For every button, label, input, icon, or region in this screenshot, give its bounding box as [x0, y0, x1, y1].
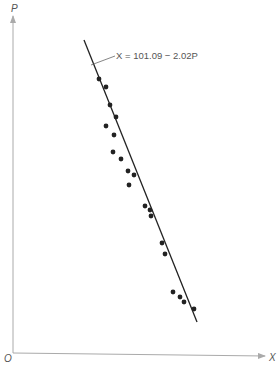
- scatter-chart: P X O X = 101.09 − 2.02P: [0, 0, 280, 367]
- data-point: [126, 169, 131, 174]
- x-axis-label: X: [268, 352, 276, 363]
- data-point: [171, 290, 176, 295]
- data-point: [119, 157, 124, 162]
- data-point: [178, 295, 183, 300]
- data-point: [97, 77, 102, 82]
- data-point: [163, 252, 168, 257]
- x-axis: [13, 353, 265, 356]
- data-point: [160, 241, 165, 246]
- data-point: [148, 208, 153, 213]
- origin-label: O: [4, 353, 12, 364]
- annotation-leader: [91, 56, 115, 65]
- data-point: [182, 300, 187, 305]
- data-point: [192, 307, 197, 312]
- data-point: [127, 183, 132, 188]
- data-point: [112, 133, 117, 138]
- y-axis-label: P: [11, 3, 18, 14]
- data-point: [114, 115, 119, 120]
- regression-line: [84, 40, 197, 322]
- regression-equation: X = 101.09 − 2.02P: [116, 50, 198, 61]
- data-point: [104, 85, 109, 90]
- data-point: [132, 173, 137, 178]
- data-points: [97, 77, 197, 312]
- data-point: [108, 103, 113, 108]
- data-point: [143, 204, 148, 209]
- data-point: [149, 214, 154, 219]
- data-point: [104, 124, 109, 129]
- data-point: [111, 150, 116, 155]
